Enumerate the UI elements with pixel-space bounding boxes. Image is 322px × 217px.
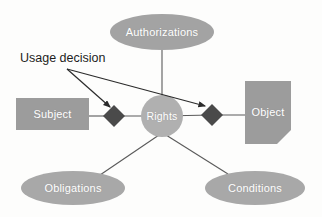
node-subject[interactable] [16, 98, 89, 130]
node-rights[interactable] [141, 95, 183, 137]
node-authorizations[interactable] [110, 14, 214, 50]
node-object[interactable] [245, 81, 291, 144]
node-obligations[interactable] [21, 171, 125, 205]
node-conditions[interactable] [205, 171, 305, 205]
diagram-canvas [0, 0, 322, 217]
connector-rights-to-obligations [100, 135, 159, 175]
decision-point-rights-object[interactable] [201, 104, 223, 126]
connector-rights-to-conditions [166, 135, 228, 174]
decision-point-subject-rights[interactable] [103, 105, 125, 127]
usage-decision-diagram: Authorizations Subject Rights Object Obl… [0, 0, 322, 217]
annotation-usage-decision: Usage decision [20, 51, 105, 65]
